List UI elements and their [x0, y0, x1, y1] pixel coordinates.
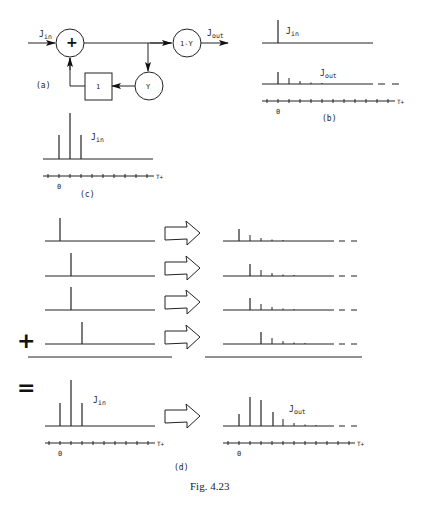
panel-b-label: (b): [322, 114, 336, 123]
feedback-line: [70, 58, 85, 86]
panel-d-result-input: [45, 380, 155, 445]
panel-b-labels: J in J out 0 T+ (b): [276, 27, 405, 123]
svg-text:T+: T+: [157, 440, 165, 447]
panel-c-label: (c): [80, 190, 94, 199]
svg-text:T+: T+: [357, 440, 365, 447]
hollow-arrow-2: [165, 256, 200, 280]
jout-subscript: out: [212, 32, 224, 40]
hollow-arrow-1: [165, 221, 200, 245]
panel-c-labels: J in 0 T+ (c): [57, 133, 164, 199]
hollow-arrow-4: [165, 325, 200, 349]
svg-text:in: in: [291, 30, 299, 38]
panel-d-result-output-labels: J out 0 T+: [237, 405, 365, 458]
panel-d-plus: + =: [17, 328, 35, 400]
figure-canvas: + 1-Y Y 1 (a) J in J out J in J ou: [0, 0, 425, 509]
jin-subscript: in: [44, 33, 52, 41]
panel-a-block-diagram: [28, 29, 228, 100]
svg-text:0: 0: [237, 450, 241, 458]
svg-text:0: 0: [58, 450, 62, 458]
gain-feedback-label: Y: [146, 83, 151, 91]
panel-a-labels: + 1-Y Y 1 (a) J in J out: [36, 29, 224, 91]
panel-d-label: (d): [174, 463, 188, 472]
panel-b-plots: [262, 20, 399, 103]
hollow-arrow-result: [165, 404, 200, 428]
panel-d-result-input-labels: J in 0 T+: [58, 396, 165, 458]
svg-text:0: 0: [57, 183, 61, 191]
panel-d-output-rows: [223, 229, 357, 344]
svg-text:out: out: [325, 72, 337, 80]
gain-output-label: 1-Y: [180, 40, 193, 48]
sum-symbol: +: [66, 34, 78, 50]
delay-label: 1: [96, 83, 100, 91]
svg-text:out: out: [294, 408, 306, 416]
svg-text:in: in: [98, 399, 106, 407]
svg-text:in: in: [96, 136, 104, 144]
svg-text:T+: T+: [397, 98, 405, 105]
hollow-arrow-3: [165, 290, 200, 314]
panel-c-plot: [43, 113, 154, 178]
figure-caption: Fig. 4.23: [190, 480, 230, 492]
panel-d-arrows: [165, 221, 200, 428]
equals-sign: =: [17, 375, 35, 400]
svg-text:T+: T+: [156, 173, 164, 180]
plus-sign: +: [17, 328, 35, 353]
panel-a-label: (a): [36, 81, 50, 90]
svg-text:0: 0: [276, 108, 280, 116]
